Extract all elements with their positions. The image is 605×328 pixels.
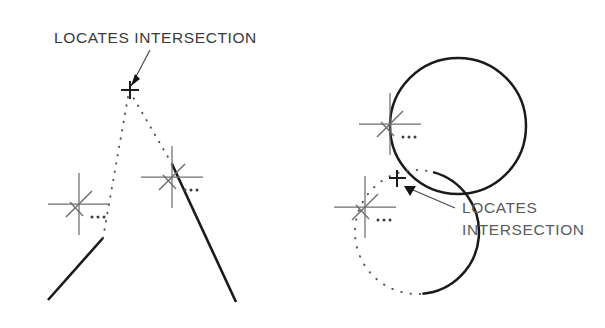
snap-trailing-dot — [389, 219, 392, 222]
snap-trailing-dot — [383, 219, 386, 222]
snap-trailing-dot — [377, 219, 380, 222]
snap-trailing-dot — [91, 216, 94, 219]
snap-trailing-dot — [97, 216, 100, 219]
right-annotation-label-line2: INTERSECTION — [462, 221, 585, 238]
snap-trailing-dot — [184, 189, 187, 192]
right-annotation-label-line1: LOCATES — [462, 199, 537, 216]
snap-trailing-dot — [414, 136, 417, 139]
snap-trailing-dot — [103, 216, 106, 219]
snap-trailing-dot — [196, 189, 199, 192]
intersection-snap-diagram: LOCATES INTERSECTION — [0, 0, 605, 328]
snap-trailing-dot — [402, 136, 405, 139]
snap-trailing-dot — [190, 189, 193, 192]
diagram-canvas: LOCATES INTERSECTION — [0, 0, 605, 328]
left-annotation-label: LOCATES INTERSECTION — [54, 29, 257, 46]
snap-trailing-dot — [408, 136, 411, 139]
